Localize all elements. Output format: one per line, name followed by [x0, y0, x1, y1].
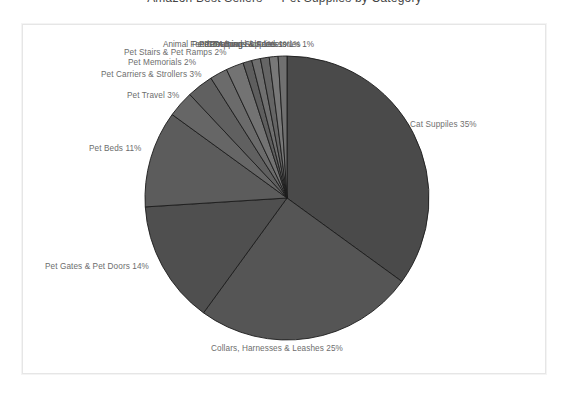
overlapped-micro-slice-labels: Animal Feed 1% Pet Grooming Supplies 1% …: [163, 39, 313, 50]
pie-label-pet-beds: Pet Beds 11%: [89, 144, 141, 154]
pie-chart-plot-area: Cat Suppiles 35% Collars, Harnesses & Le…: [0, 0, 569, 398]
pie-label-pet-bowls-feeders: Pet Bowls & Feeders 1%: [210, 39, 301, 50]
pie-label-pet-gates-pet-doors: Pet Gates & Pet Doors 14%: [45, 262, 149, 272]
pie-chart-svg: [0, 0, 569, 398]
pie-label-cat-supplies: Cat Suppiles 35%: [410, 120, 477, 130]
pie-label-collars-harnesses-leashes: Collars, Harnesses & Leashes 25%: [211, 344, 343, 354]
pie-slice-group: [145, 56, 429, 340]
pie-label-pet-memorials: Pet Memorials 2%: [128, 58, 196, 68]
pie-label-pet-carriers-strollers: Pet Carriers & Strollers 3%: [101, 70, 202, 80]
pie-label-pet-travel: Pet Travel 3%: [127, 91, 179, 101]
